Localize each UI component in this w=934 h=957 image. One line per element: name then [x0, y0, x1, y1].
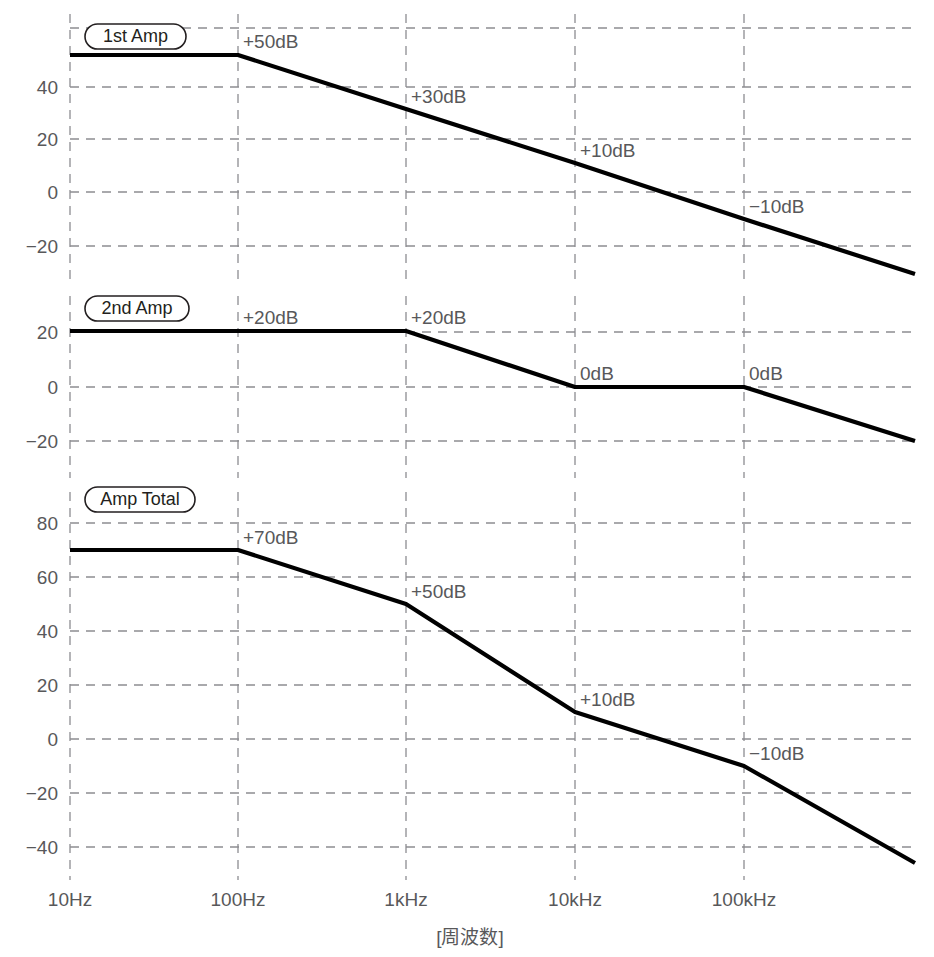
badge-label: 2nd Amp [101, 298, 172, 318]
y-tick-label: −20 [26, 236, 58, 257]
panel-amp-total: 80 60 40 20 0 −20 −40 +70dB +50dB +10dB … [26, 487, 915, 880]
y-tick-label: 80 [37, 513, 58, 534]
badge-second-amp: 2nd Amp [85, 296, 189, 321]
y-tick-label: −20 [26, 783, 58, 804]
y-tick-label: 0 [47, 377, 58, 398]
point-label: +20dB [411, 307, 466, 328]
y-tick-label: 60 [37, 567, 58, 588]
point-label: 0dB [580, 363, 614, 384]
point-label: 0dB [749, 363, 783, 384]
y-tick-label: 20 [37, 322, 58, 343]
point-label: +10dB [580, 140, 635, 161]
x-tick-label-100hz: 100Hz [211, 889, 266, 910]
badge-first-amp: 1st Amp [85, 24, 186, 49]
x-axis: 10Hz 100Hz 1kHz 10kHz 100kHz [周波数] [48, 889, 776, 948]
y-tick-label: 40 [37, 77, 58, 98]
x-axis-caption: [周波数] [436, 927, 504, 948]
badge-label: 1st Amp [103, 26, 168, 46]
frequency-response-chart: 40 20 0 −20 +50dB +30dB +10dB −10dB 1st … [0, 0, 934, 957]
point-label: −10dB [749, 196, 804, 217]
y-tick-label: −40 [26, 837, 58, 858]
response-curve-first-amp [70, 55, 915, 274]
point-label: +30dB [411, 86, 466, 107]
response-curve-amp-total [70, 550, 915, 863]
point-label: +10dB [580, 689, 635, 710]
point-label: +20dB [243, 307, 298, 328]
x-tick-label-100khz: 100kHz [712, 889, 776, 910]
y-tick-label: −20 [26, 431, 58, 452]
point-label: −10dB [749, 743, 804, 764]
badge-label: Amp Total [100, 489, 180, 509]
panel-first-amp: 40 20 0 −20 +50dB +30dB +10dB −10dB 1st … [26, 14, 915, 284]
point-label: +50dB [411, 581, 466, 602]
y-tick-label: 0 [47, 182, 58, 203]
response-curve-second-amp [70, 331, 915, 441]
y-tick-label: 0 [47, 729, 58, 750]
point-label: +50dB [243, 31, 298, 52]
y-tick-label: 20 [37, 129, 58, 150]
y-tick-label: 40 [37, 621, 58, 642]
bode-plot-figure: 40 20 0 −20 +50dB +30dB +10dB −10dB 1st … [0, 0, 934, 957]
x-tick-label-1khz: 1kHz [384, 889, 427, 910]
panel-second-amp: 20 0 −20 +20dB +20dB 0dB 0dB 2nd Amp [26, 296, 915, 478]
x-tick-label-10hz: 10Hz [48, 889, 92, 910]
y-tick-label: 20 [37, 675, 58, 696]
x-tick-label-10khz: 10kHz [548, 889, 602, 910]
badge-amp-total: Amp Total [85, 487, 195, 512]
point-label: +70dB [243, 527, 298, 548]
